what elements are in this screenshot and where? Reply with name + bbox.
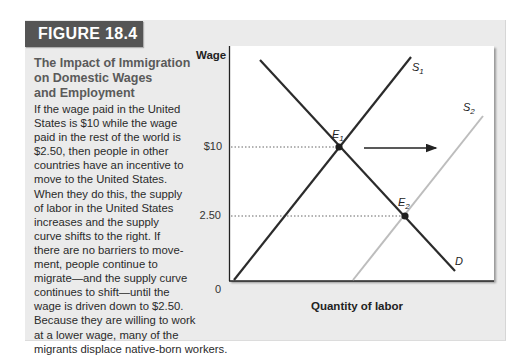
demand-curve — [260, 60, 455, 271]
e2-label: E2 — [398, 196, 410, 211]
d-label: D — [455, 255, 463, 267]
equilibrium-point-e2 — [401, 212, 408, 219]
s1-label: S1 — [412, 61, 424, 76]
supply-curve-s1 — [234, 57, 411, 280]
supply-curve-s2 — [353, 116, 483, 280]
s2-label: S2 — [463, 101, 475, 116]
equilibrium-point-e1 — [335, 143, 342, 150]
supply-demand-chart: S1 S2 E1 E2 D — [0, 0, 529, 358]
